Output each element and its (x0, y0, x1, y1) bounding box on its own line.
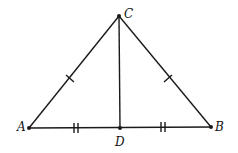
label-c: C (124, 7, 133, 21)
point-b (209, 125, 213, 129)
segment-cd (119, 16, 120, 128)
point-d (118, 126, 122, 130)
segment-bc (119, 16, 211, 127)
label-b: B (214, 120, 224, 134)
segment-ac (29, 16, 119, 128)
triangle-diagram: C A B D (0, 0, 238, 153)
label-a: A (16, 120, 26, 134)
point-a (27, 126, 31, 130)
label-d: D (114, 135, 125, 149)
point-c (117, 14, 121, 18)
